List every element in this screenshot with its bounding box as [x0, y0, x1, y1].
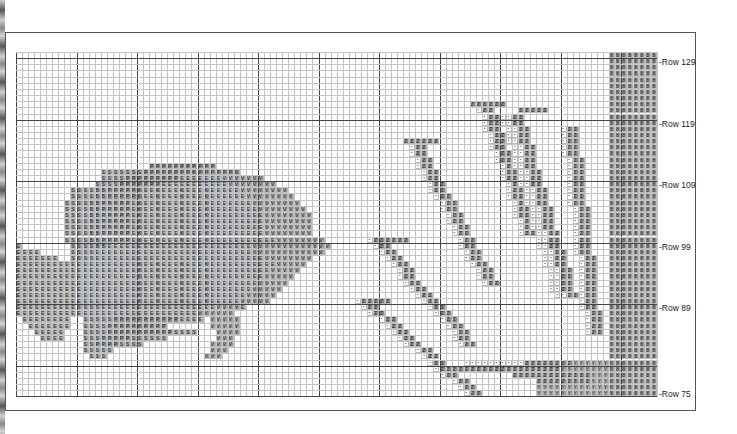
grid-line-horizontal: [16, 323, 657, 324]
grid-line-horizontal: [16, 335, 657, 336]
grid-line-horizontal: [16, 64, 657, 65]
grid-line-horizontal: [16, 310, 657, 311]
grid-line-horizontal: [16, 77, 657, 78]
grid-line-horizontal: [16, 70, 657, 71]
grid-line-horizontal: [16, 292, 657, 293]
grid-line-horizontal: [16, 114, 657, 115]
grid-line-horizontal: [16, 378, 657, 379]
grid-line-horizontal: [16, 193, 657, 194]
grid-line-horizontal: [16, 353, 657, 354]
grid-line-horizontal: [16, 218, 657, 219]
grid-line-horizontal: [16, 120, 657, 121]
grid-line-horizontal: [16, 286, 657, 287]
grid-line-horizontal: [16, 212, 657, 213]
grid-line-horizontal: [16, 261, 657, 262]
row-label: -Row 99: [659, 242, 691, 252]
grid-line-horizontal: [16, 58, 657, 59]
row-label: -Row 89: [659, 303, 691, 313]
grid-line-horizontal: [16, 249, 657, 250]
grid-line-horizontal: [16, 83, 657, 84]
grid-line-horizontal: [16, 396, 657, 397]
row-label: -Row 129: [659, 57, 695, 67]
grid-line-horizontal: [16, 390, 657, 391]
grid-line-horizontal: [16, 243, 657, 244]
grid-line-vertical: [657, 52, 658, 396]
grid-line-horizontal: [16, 144, 657, 145]
grid-line-horizontal: [16, 52, 657, 53]
grid-line-horizontal: [16, 138, 657, 139]
grid-line-horizontal: [16, 360, 657, 361]
grid-line-horizontal: [16, 157, 657, 158]
grid-line-horizontal: [16, 150, 657, 151]
row-label: -Row 109: [659, 180, 695, 190]
grid-line-horizontal: [16, 267, 657, 268]
grid-line-horizontal: [16, 132, 657, 133]
grid-line-horizontal: [16, 224, 657, 225]
grid-line-horizontal: [16, 341, 657, 342]
grid-line-horizontal: [16, 200, 657, 201]
grid-line-horizontal: [16, 255, 657, 256]
grid-line-horizontal: [16, 384, 657, 385]
grid-line-horizontal: [16, 347, 657, 348]
row-label: -Row 75: [659, 389, 691, 399]
grid-line-horizontal: [16, 316, 657, 317]
grid-line-horizontal: [16, 163, 657, 164]
grid-line-horizontal: [16, 304, 657, 305]
grid-line-horizontal: [16, 101, 657, 102]
grid-line-horizontal: [16, 107, 657, 108]
grid-line-horizontal: [16, 372, 657, 373]
grid-line-horizontal: [16, 329, 657, 330]
grid-line-horizontal: [16, 175, 657, 176]
grid-line-horizontal: [16, 230, 657, 231]
grid-line-horizontal: [16, 89, 657, 90]
grid-line-horizontal: [16, 95, 657, 96]
grid-line-horizontal: [16, 169, 657, 170]
grid-line-horizontal: [16, 237, 657, 238]
row-label: -Row 119: [659, 119, 695, 129]
grid-line-horizontal: [16, 126, 657, 127]
grid-line-horizontal: [16, 206, 657, 207]
grid-line-horizontal: [16, 298, 657, 299]
grid-line-horizontal: [16, 280, 657, 281]
grid-line-horizontal: [16, 366, 657, 367]
grid-line-horizontal: [16, 187, 657, 188]
grid-line-horizontal: [16, 181, 657, 182]
grid-line-horizontal: [16, 273, 657, 274]
